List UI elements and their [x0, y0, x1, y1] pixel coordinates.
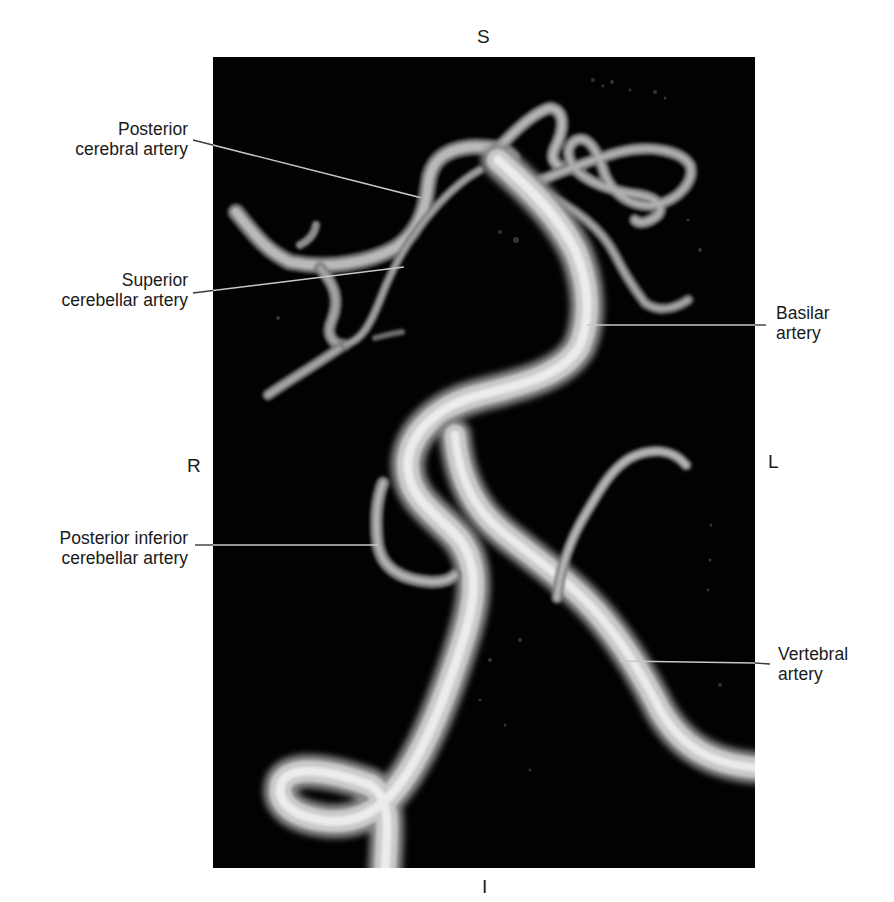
label-line-1: Vertebral	[778, 644, 888, 664]
label-basilar-artery: Basilar artery	[776, 303, 886, 343]
label-line-2: cerebral artery	[0, 139, 188, 159]
label-posterior-inferior-cerebellar-artery: Posterior inferior cerebellar artery	[0, 528, 188, 568]
label-superior-cerebellar-artery: Superior cerebellar artery	[0, 270, 188, 310]
orientation-inferior: I	[482, 877, 487, 896]
label-line-1: Posterior	[0, 119, 188, 139]
label-line-2: cerebellar artery	[0, 548, 188, 568]
label-line-1: Basilar	[776, 303, 886, 323]
leader-line-vertebral-outer	[755, 663, 770, 664]
label-line-1: Posterior inferior	[0, 528, 188, 548]
orientation-superior: S	[477, 27, 490, 46]
label-line-1: Superior	[0, 270, 188, 290]
leader-line-posterior-cerebral-inner	[213, 145, 422, 198]
leader-line-superior-cerebellar-outer	[193, 291, 213, 294]
orientation-right: R	[187, 456, 201, 475]
label-line-2: artery	[776, 323, 886, 343]
orientation-left: L	[768, 452, 779, 471]
label-line-2: artery	[778, 664, 888, 684]
label-line-2: cerebellar artery	[0, 290, 188, 310]
label-posterior-cerebral-artery: Posterior cerebral artery	[0, 119, 188, 159]
label-vertebral-artery: Vertebral artery	[778, 644, 888, 684]
angiogram-figure: S I R L Posterior cerebral artery Superi…	[0, 0, 894, 902]
